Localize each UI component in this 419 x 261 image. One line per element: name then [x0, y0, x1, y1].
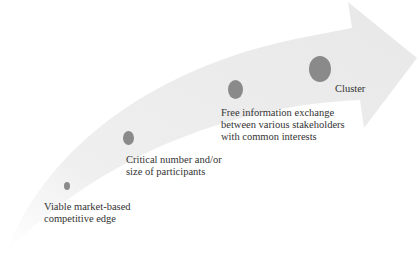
stage-1-label: Viable market-based competitive edge [44, 201, 131, 225]
stage-4-dot [309, 56, 331, 82]
diagram-canvas: Viable market-based competitive edge Cri… [0, 0, 419, 261]
stage-3-dot [228, 80, 243, 99]
stage-4-label: Cluster [335, 83, 365, 95]
stage-2-dot [123, 131, 134, 145]
stage-1-dot [64, 182, 70, 190]
stage-2-label: Critical number and/or size of participa… [126, 154, 222, 178]
stage-3-label: Free information exchange between variou… [221, 107, 345, 143]
